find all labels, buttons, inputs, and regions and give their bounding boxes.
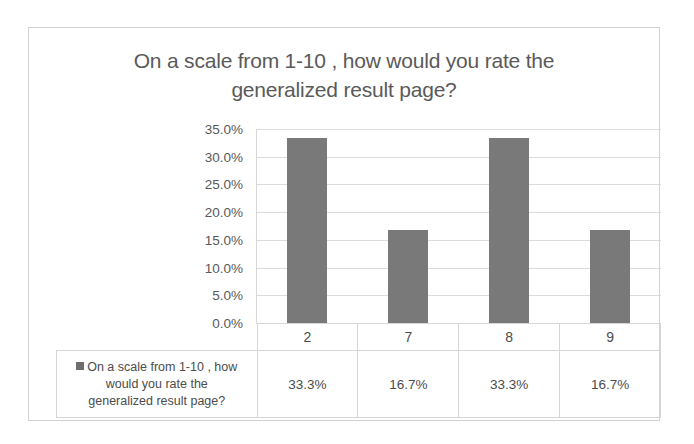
category-header-cell: 8 (459, 324, 560, 351)
chart-title: On a scale from 1-10 , how would you rat… (69, 46, 619, 104)
y-axis-tick-labels: 35.0%30.0%25.0%20.0%15.0%10.0%5.0%0.0% (179, 123, 249, 329)
legend-color-swatch-icon (76, 362, 84, 370)
value-cell: 16.7% (560, 351, 661, 418)
value-cell: 16.7% (358, 351, 459, 418)
bar (388, 230, 428, 323)
value-cell: 33.3% (459, 351, 560, 418)
chart-frame: On a scale from 1-10 , how would you rat… (28, 27, 660, 421)
legend-label-line-1: On a scale from 1-10 , how (87, 360, 237, 374)
category-header-cell: 7 (358, 324, 459, 351)
y-axis-tick-label: 25.0% (205, 177, 243, 192)
table-row-categories: 2789 (57, 324, 661, 351)
bar (590, 230, 630, 323)
y-axis-tick-label: 20.0% (205, 205, 243, 220)
legend-label-line-2: would you rate the (106, 377, 208, 391)
chart-title-line-1: On a scale from 1-10 , how would you rat… (69, 46, 619, 75)
chart-title-line-2: generalized result page? (69, 75, 619, 104)
y-axis-tick-label: 5.0% (212, 288, 243, 303)
y-axis-tick-label: 35.0% (205, 122, 243, 137)
legend-entry: On a scale from 1-10 , how would you rat… (57, 351, 258, 418)
y-axis-tick-label: 15.0% (205, 232, 243, 247)
table-row-values: On a scale from 1-10 , how would you rat… (57, 351, 661, 418)
legend-label-line-3: generalized result page? (88, 394, 225, 408)
value-cell: 33.3% (257, 351, 358, 418)
bar-series (256, 129, 661, 323)
legend-spacer-cell (57, 324, 258, 351)
chart-data-table: 2789 On a scale from 1-10 , how would yo… (56, 323, 661, 418)
category-header-cell: 2 (257, 324, 358, 351)
bar (287, 138, 327, 323)
category-header-cell: 9 (560, 324, 661, 351)
y-axis-tick-label: 10.0% (205, 260, 243, 275)
bar (489, 138, 529, 323)
plot-area (256, 129, 661, 323)
y-axis-tick-label: 30.0% (205, 149, 243, 164)
